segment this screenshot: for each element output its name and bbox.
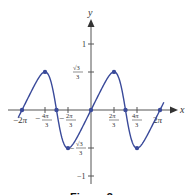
- svg-text:−1: −1: [77, 172, 86, 181]
- svg-text:3: 3: [76, 73, 79, 80]
- svg-text:3: 3: [135, 121, 138, 128]
- svg-text:4π: 4π: [132, 112, 139, 119]
- data-point: [43, 70, 47, 74]
- svg-text:−: −: [35, 113, 40, 123]
- data-point: [20, 108, 24, 112]
- figure-caption: Figure 3: [70, 191, 113, 195]
- svg-text:3: 3: [45, 121, 48, 128]
- axes: [8, 24, 172, 184]
- svg-text:−2π: −2π: [13, 115, 28, 125]
- data-point: [89, 108, 93, 112]
- data-point: [135, 146, 139, 150]
- x-tick-labels: −2π − 4π 3 − 2π 3 2π 3 4π 3 2π: [13, 112, 163, 128]
- svg-text:3: 3: [79, 149, 82, 156]
- x-axis-arrow-icon: [170, 107, 178, 114]
- x-axis-label: x: [179, 104, 185, 115]
- svg-text:−: −: [59, 113, 64, 123]
- chart-canvas: x y −2π − 4π 3 − 2π 3 2π 3 4π 3 2π 1 √3 …: [0, 0, 187, 195]
- y-axis-arrow-icon: [88, 19, 95, 27]
- svg-text:3: 3: [112, 121, 115, 128]
- data-point: [54, 108, 58, 112]
- svg-text:2π: 2π: [109, 112, 116, 119]
- svg-text:2π: 2π: [66, 112, 73, 119]
- svg-text:1: 1: [82, 40, 86, 49]
- data-point: [123, 108, 127, 112]
- y-axis-label: y: [87, 7, 93, 18]
- svg-text:4π: 4π: [42, 112, 49, 119]
- data-point: [158, 108, 162, 112]
- svg-text:3: 3: [69, 121, 72, 128]
- svg-text:√3: √3: [73, 64, 80, 71]
- data-point: [112, 70, 116, 74]
- svg-text:√3: √3: [76, 140, 83, 147]
- data-point: [66, 146, 70, 150]
